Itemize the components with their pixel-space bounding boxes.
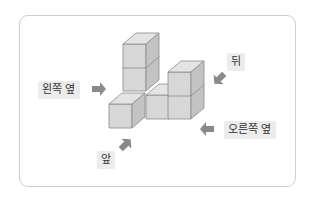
cube-front-left <box>109 93 145 128</box>
arrow-back-icon <box>209 69 229 89</box>
label-back: 뒤 <box>227 53 245 71</box>
label-left-side: 왼쪽 옆 <box>38 81 80 99</box>
arrow-left-side-icon <box>92 82 106 96</box>
cube-structure <box>0 0 314 199</box>
arrow-right-side-icon <box>200 122 214 136</box>
label-front: 앞 <box>97 151 115 169</box>
label-right-side: 오른쪽 옆 <box>224 121 276 139</box>
arrow-front-icon <box>116 134 136 154</box>
